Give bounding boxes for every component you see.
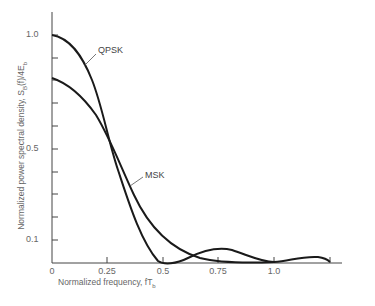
qpsk-curve (52, 35, 330, 263)
y-axis-label: Normalized power spectral density, SB(f)… (16, 46, 28, 246)
x-tick-label-05: 0.5 (157, 266, 170, 276)
y-tick-label-05: 0.5 (26, 143, 39, 153)
y-tick-label-01: 0.1 (26, 234, 39, 244)
x-tick-label-025: 0.25 (98, 266, 116, 276)
y-ticks (52, 35, 58, 240)
y-tick-label-1: 1.0 (26, 29, 39, 39)
x-tick-label-1: 1.0 (268, 266, 281, 276)
x-axis-label: Normalized frequency, fTb (58, 277, 156, 289)
x-tick-label-075: 0.75 (209, 266, 227, 276)
qpsk-leader (84, 54, 96, 66)
qpsk-label: QPSK (98, 45, 123, 55)
msk-leader (130, 177, 143, 186)
chart-plot (0, 0, 375, 306)
msk-label: MSK (145, 170, 165, 180)
x-tick-label-0: 0 (49, 266, 54, 276)
